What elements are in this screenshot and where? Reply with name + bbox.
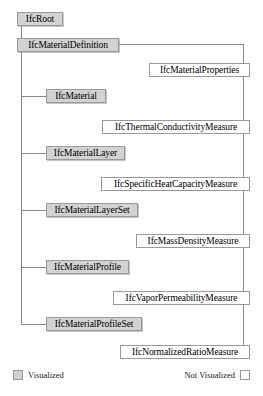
- connector-branch-to-materiallayerset: [21, 210, 46, 211]
- node-ifc-normalized-ratio-measure[interactable]: IfcNormalizedRatioMeasure: [120, 345, 250, 359]
- node-ifc-thermal-conductivity-measure[interactable]: IfcThermalConductivityMeasure: [102, 120, 250, 134]
- node-ifc-mass-density-measure[interactable]: IfcMassDensityMeasure: [136, 234, 250, 248]
- node-ifc-material-profile-set[interactable]: IfcMaterialProfileSet: [46, 317, 142, 331]
- node-ifc-vapor-permeability-measure[interactable]: IfcVaporPermeabilityMeasure: [113, 291, 250, 305]
- node-ifc-root[interactable]: IfcRoot: [17, 12, 63, 26]
- node-ifc-material-layer-set[interactable]: IfcMaterialLayerSet: [46, 203, 138, 217]
- node-ifc-material-properties[interactable]: IfcMaterialProperties: [149, 63, 250, 77]
- ifc-material-hierarchy-diagram: IfcRoot IfcMaterialDefinition IfcMateria…: [0, 0, 263, 396]
- node-ifc-material-definition[interactable]: IfcMaterialDefinition: [17, 38, 119, 52]
- connector-materialdefinition-to-right-trunk: [119, 44, 243, 45]
- connector-branch-to-materialprofileset: [21, 324, 46, 325]
- legend-item-visualized: Visualized: [13, 370, 64, 380]
- node-ifc-material[interactable]: IfcMaterial: [46, 89, 106, 103]
- node-ifc-material-layer[interactable]: IfcMaterialLayer: [46, 146, 125, 160]
- legend-item-not-visualized: Not Visualized: [184, 370, 250, 380]
- legend-label-not-visualized: Not Visualized: [184, 370, 235, 380]
- connector-left-trunk: [21, 52, 22, 324]
- connector-root-to-materialdefinition: [21, 26, 22, 38]
- legend-label-visualized: Visualized: [28, 370, 64, 380]
- node-ifc-material-profile[interactable]: IfcMaterialProfile: [46, 260, 129, 274]
- legend: Visualized Not Visualized: [0, 368, 263, 386]
- connector-branch-to-materialprofile: [21, 267, 46, 268]
- legend-swatch-not-visualized-icon: [240, 370, 250, 380]
- connector-branch-to-material: [21, 96, 46, 97]
- connector-branch-to-materiallayer: [21, 153, 46, 154]
- node-ifc-specific-heat-capacity-measure[interactable]: IfcSpecificHeatCapacityMeasure: [101, 177, 250, 191]
- legend-swatch-visualized-icon: [13, 370, 23, 380]
- connector-right-trunk: [243, 44, 244, 352]
